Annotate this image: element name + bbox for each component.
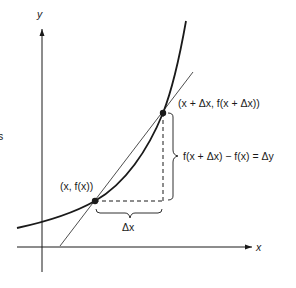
- point-upper-label: (x + Δx, f(x + Δx)): [178, 97, 260, 109]
- secant-diagram: y x (x, f(x)) (x + Δx, f(x + Δx)) Δx f(x…: [0, 0, 296, 288]
- point-lower: [92, 198, 98, 204]
- edge-text-fragment: s: [0, 130, 3, 142]
- y-axis-label: y: [36, 8, 43, 20]
- delta-x-brace: [96, 209, 162, 218]
- point-lower-label: (x, f(x)): [60, 180, 93, 192]
- delta-y-brace: [168, 113, 178, 200]
- point-upper: [160, 110, 166, 116]
- secant-line: [60, 72, 193, 246]
- delta-x-label: Δx: [122, 221, 135, 233]
- x-axis-label: x: [255, 241, 262, 253]
- delta-y-label: f(x + Δx) − f(x) = Δy: [183, 150, 274, 162]
